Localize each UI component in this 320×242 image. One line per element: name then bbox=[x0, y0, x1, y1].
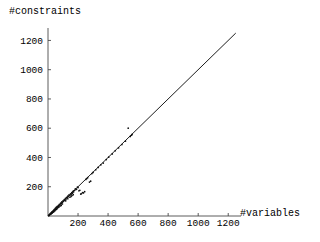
data-point bbox=[72, 194, 74, 196]
x-tick-label: 800 bbox=[160, 218, 177, 229]
data-point bbox=[62, 203, 64, 205]
data-point bbox=[100, 164, 102, 166]
diagonal-line bbox=[48, 33, 236, 216]
identity-reference-line bbox=[48, 33, 236, 216]
x-axis-ticks: 20040060080010001200 bbox=[69, 213, 239, 229]
data-point bbox=[108, 156, 110, 158]
x-tick-label: 400 bbox=[100, 218, 117, 229]
data-point bbox=[68, 196, 70, 198]
data-point bbox=[97, 167, 99, 169]
data-point bbox=[77, 187, 79, 189]
y-tick-label: 1000 bbox=[20, 65, 43, 76]
data-point bbox=[48, 215, 50, 217]
y-tick-label: 200 bbox=[26, 182, 43, 193]
data-point bbox=[95, 169, 97, 171]
data-point bbox=[102, 162, 104, 164]
data-point bbox=[111, 153, 113, 155]
data-point bbox=[76, 189, 78, 191]
x-tick-label: 600 bbox=[130, 218, 147, 229]
data-point bbox=[67, 198, 69, 200]
x-tick-label: 200 bbox=[69, 218, 86, 229]
data-point bbox=[58, 206, 60, 208]
data-points-group bbox=[48, 127, 133, 216]
y-tick-label: 400 bbox=[26, 153, 43, 164]
data-point bbox=[87, 177, 89, 179]
data-point bbox=[84, 191, 86, 193]
data-point bbox=[74, 189, 76, 191]
data-point bbox=[65, 200, 67, 202]
data-point bbox=[60, 205, 62, 207]
data-point bbox=[105, 159, 107, 161]
data-point bbox=[92, 172, 94, 174]
data-point bbox=[118, 147, 120, 149]
data-point bbox=[79, 189, 81, 191]
y-tick-label: 1200 bbox=[20, 36, 43, 47]
data-point bbox=[121, 144, 123, 146]
data-point bbox=[127, 127, 129, 129]
data-point bbox=[114, 150, 116, 152]
data-point bbox=[52, 211, 54, 213]
data-point bbox=[54, 210, 56, 212]
scatter-plot-figure: #constraints #variables 2004006008001000… bbox=[0, 0, 320, 242]
data-point bbox=[56, 208, 58, 210]
plot-canvas: 20040060080010001200 2004006008001000120… bbox=[0, 0, 320, 242]
y-tick-label: 800 bbox=[26, 94, 43, 105]
y-axis-ticks: 20040060080010001200 bbox=[20, 36, 51, 193]
y-tick-label: 600 bbox=[26, 123, 43, 134]
x-tick-label: 1000 bbox=[187, 218, 210, 229]
data-point bbox=[131, 134, 133, 136]
data-point bbox=[90, 180, 92, 182]
x-tick-label: 1200 bbox=[217, 218, 240, 229]
data-point bbox=[125, 140, 127, 142]
